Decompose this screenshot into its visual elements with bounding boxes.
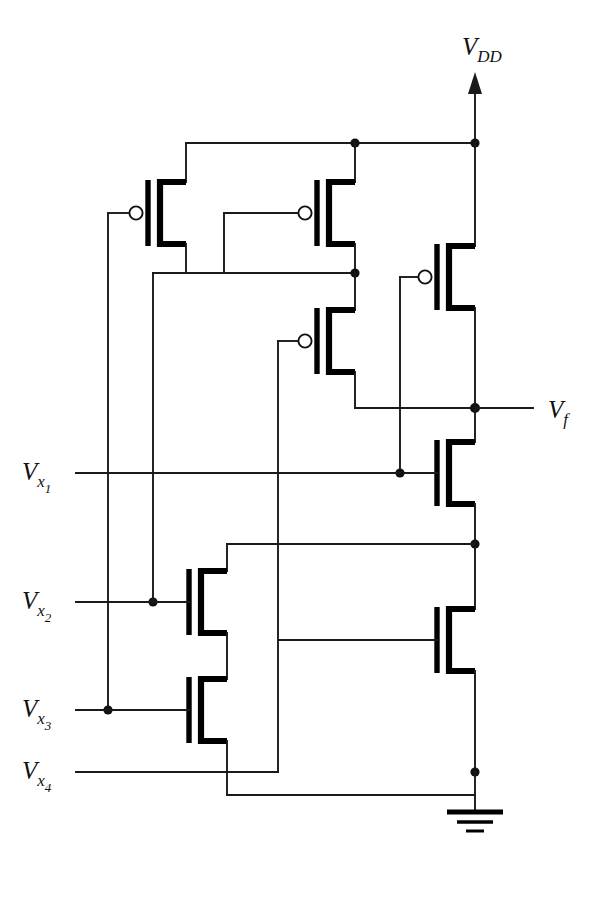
label-vf: Vf xyxy=(548,396,570,429)
transistor-p1-pmos xyxy=(108,143,186,273)
p2-channel xyxy=(329,182,355,244)
transistor-n1-nmos xyxy=(395,408,475,544)
vdd-arrowhead xyxy=(468,72,482,94)
gate-rails xyxy=(108,213,153,710)
n2-channel xyxy=(449,609,475,671)
transistor-p4-pmos xyxy=(400,143,475,473)
label-vx3-sub2: 3 xyxy=(44,718,52,733)
label-vf-sub: f xyxy=(563,410,570,429)
transistor-n4-nmos xyxy=(76,677,475,795)
n1-channel xyxy=(449,442,475,504)
circuit-schematic: VDD Vf Vx1 Vx2 Vx3 Vx4 xyxy=(0,0,606,900)
label-vx4: Vx4 xyxy=(22,757,52,795)
schematic-canvas: VDD Vf Vx1 Vx2 Vx3 Vx4 xyxy=(0,0,606,900)
p3-gate-bubble-icon xyxy=(298,334,311,347)
label-vdd-sub: DD xyxy=(476,47,502,66)
p1-gate-bubble-icon xyxy=(129,206,142,219)
label-vx1: Vx1 xyxy=(22,458,51,496)
pmos-parallel-drain-bus xyxy=(186,268,360,310)
transistor-p2-pmos xyxy=(153,143,355,273)
transistor-n2-nmos xyxy=(278,544,475,772)
ground-connection xyxy=(447,767,503,831)
label-vx4-sub2: 4 xyxy=(45,780,52,795)
label-vx2-sub2: 2 xyxy=(45,610,52,625)
output-node-vf xyxy=(470,403,533,413)
nmos-mid-node xyxy=(227,539,480,571)
transistor-p3-pmos xyxy=(278,308,475,772)
n3-channel xyxy=(201,571,227,633)
input-lines xyxy=(76,473,400,772)
label-vx1-sub2: 1 xyxy=(45,481,52,496)
p4-channel xyxy=(449,246,475,308)
p4-gate-bubble-icon xyxy=(418,270,431,283)
transistor-n3-nmos xyxy=(76,569,227,679)
p2-gate-bubble-icon xyxy=(298,206,311,219)
label-vx3: Vx3 xyxy=(22,695,52,733)
label-vdd: VDD xyxy=(462,33,503,66)
p1-channel xyxy=(160,182,186,244)
n4-channel xyxy=(201,679,227,741)
label-vx2: Vx2 xyxy=(22,587,52,625)
vdd-supply xyxy=(186,72,482,148)
p3-channel xyxy=(329,310,355,372)
